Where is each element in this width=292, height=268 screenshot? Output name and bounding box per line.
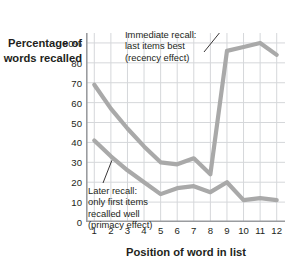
x-tick-label: 10 [235, 225, 253, 236]
x-tick-label: 12 [268, 225, 286, 236]
chart-root: Percentage of words recalled 01020304050… [0, 0, 292, 268]
x-tick-label: 8 [201, 225, 219, 236]
y-tick-label: 80 [48, 57, 82, 68]
annotation-later-recall: Later recall: only first items recalled … [88, 185, 152, 231]
x-tick-label: 7 [185, 225, 203, 236]
x-tick-label: 5 [152, 225, 170, 236]
annotation-immediate-recall: Immediate recall: last items best (recen… [125, 29, 196, 63]
y-tick-label: 0 [48, 217, 82, 228]
y-tick-label: 60 [48, 97, 82, 108]
y-tick-label: 90% [48, 37, 82, 48]
x-tick-label: 9 [218, 225, 236, 236]
data-series [94, 43, 276, 200]
y-tick-label: 20 [48, 177, 82, 188]
y-tick-label: 50 [48, 117, 82, 128]
x-axis-title: Position of word in list [86, 246, 286, 258]
y-tick-label: 70 [48, 77, 82, 88]
x-tick-label: 11 [251, 225, 269, 236]
x-tick-label: 6 [168, 225, 186, 236]
y-tick-label: 10 [48, 197, 82, 208]
y-tick-label: 40 [48, 137, 82, 148]
y-tick-label: 30 [48, 157, 82, 168]
